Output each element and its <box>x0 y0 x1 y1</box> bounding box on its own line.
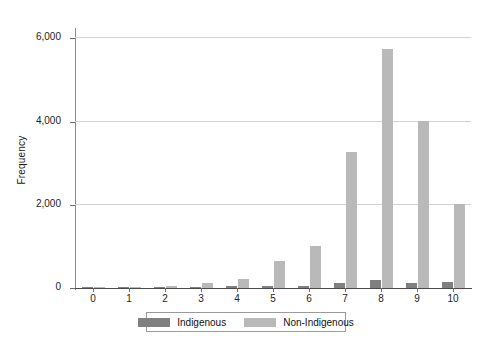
bar-group <box>255 30 291 288</box>
bar-series-container <box>75 30 471 288</box>
legend-swatch-non-indigenous <box>244 318 276 327</box>
x-tick-mark <box>453 288 454 292</box>
legend-label-indigenous: Indigenous <box>177 317 226 328</box>
legend-item-indigenous: Indigenous <box>129 317 235 328</box>
y-tick-label: 0 <box>55 281 61 292</box>
bar-indigenous-3 <box>190 287 201 288</box>
bar-group <box>291 30 327 288</box>
bar-group <box>363 30 399 288</box>
legend-item-non-indigenous: Non-Indigenous <box>235 317 363 328</box>
bar-group <box>327 30 363 288</box>
legend-swatch-indigenous <box>138 318 170 327</box>
legend-label-non-indigenous: Non-Indigenous <box>283 317 354 328</box>
y-tick-label: 2,000 <box>36 198 61 209</box>
bar-indigenous-6 <box>298 286 309 288</box>
bar-indigenous-10 <box>442 282 453 288</box>
x-tick-label: 4 <box>217 293 257 304</box>
x-tick-mark <box>309 288 310 292</box>
bar-non-indigenous-8 <box>382 49 393 288</box>
x-tick-label: 6 <box>289 293 329 304</box>
x-tick-mark <box>237 288 238 292</box>
x-tick-mark <box>273 288 274 292</box>
y-tick-label: 6,000 <box>36 31 61 42</box>
bar-indigenous-8 <box>370 280 381 288</box>
bar-indigenous-9 <box>406 283 417 288</box>
bar-non-indigenous-2 <box>166 286 177 288</box>
y-tick-label: 4,000 <box>36 115 61 126</box>
plot-area <box>75 30 471 288</box>
bar-indigenous-1 <box>118 287 129 288</box>
bar-group <box>399 30 435 288</box>
bar-non-indigenous-7 <box>346 152 357 288</box>
bar-group <box>75 30 111 288</box>
bar-chart: Frequency 02,0004,0006,000 012345678910 … <box>0 0 491 346</box>
x-tick-mark <box>165 288 166 292</box>
bar-non-indigenous-1 <box>130 287 141 288</box>
bar-indigenous-7 <box>334 283 345 288</box>
y-axis-ticks: 02,0004,0006,000 <box>0 0 75 346</box>
x-tick-mark <box>129 288 130 292</box>
x-tick-mark <box>345 288 346 292</box>
bar-group <box>219 30 255 288</box>
x-tick-mark <box>93 288 94 292</box>
x-tick-label: 1 <box>109 293 149 304</box>
x-tick-label: 9 <box>397 293 437 304</box>
bar-indigenous-4 <box>226 286 237 288</box>
bar-group <box>147 30 183 288</box>
bar-non-indigenous-9 <box>418 121 429 288</box>
bar-non-indigenous-10 <box>454 204 465 288</box>
x-tick-label: 7 <box>325 293 365 304</box>
bar-indigenous-2 <box>154 287 165 288</box>
x-tick-label: 10 <box>433 293 473 304</box>
bar-non-indigenous-4 <box>238 279 249 288</box>
bar-indigenous-0 <box>82 287 93 288</box>
bar-indigenous-5 <box>262 286 273 288</box>
x-tick-label: 3 <box>181 293 221 304</box>
bar-non-indigenous-0 <box>94 287 105 288</box>
x-tick-mark <box>201 288 202 292</box>
x-tick-mark <box>417 288 418 292</box>
bar-non-indigenous-5 <box>274 261 285 288</box>
x-tick-label: 0 <box>73 293 113 304</box>
legend: Indigenous Non-Indigenous <box>146 312 346 332</box>
bar-group <box>435 30 471 288</box>
bar-group <box>183 30 219 288</box>
x-tick-label: 5 <box>253 293 293 304</box>
bar-group <box>111 30 147 288</box>
x-tick-mark <box>381 288 382 292</box>
bar-non-indigenous-3 <box>202 283 213 288</box>
bar-non-indigenous-6 <box>310 246 321 288</box>
x-tick-label: 8 <box>361 293 401 304</box>
x-tick-label: 2 <box>145 293 185 304</box>
